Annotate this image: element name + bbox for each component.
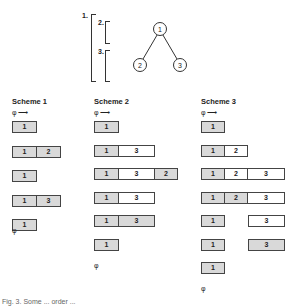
row-segment: 3 (119, 145, 155, 157)
row-segment: 1 (94, 145, 119, 157)
scheme-row: 132 (94, 168, 178, 180)
scheme-row: 13 (201, 215, 285, 227)
row-segment: 3 (37, 195, 61, 207)
row-segment: 1 (201, 145, 225, 157)
scheme-row: 123 (201, 168, 285, 180)
phi-start-label: φ ⟶ (201, 109, 217, 116)
row-segment: 3 (248, 239, 285, 251)
scheme-title: Scheme 2 (94, 98, 129, 106)
phi-start-label: φ ⟶ (12, 109, 28, 116)
bracket-1 (91, 14, 96, 82)
scheme-row: 13 (94, 215, 155, 227)
row-segment: 1 (94, 121, 119, 133)
tree-node-1: 1 (154, 23, 167, 36)
scheme-row: 13 (12, 195, 61, 207)
bracket-label-1: 1. (82, 12, 88, 19)
scheme-row: 12 (12, 146, 61, 158)
row-segment: 1 (12, 146, 37, 158)
svg-text:1: 1 (158, 26, 162, 33)
scheme-row: 1 (12, 121, 37, 133)
row-segment: 1 (94, 168, 119, 180)
row-segment: 1 (94, 192, 119, 204)
scheme-row: 1 (94, 121, 119, 133)
svg-text:3: 3 (178, 62, 182, 69)
scheme-row: 13 (94, 145, 155, 157)
tree-diagram: 1 2 3 (125, 15, 200, 80)
row-segment: 3 (119, 192, 155, 204)
row-segment: 1 (201, 215, 225, 227)
scheme-title: Scheme 3 (201, 98, 236, 106)
phi-start-label: φ ⟶ (94, 109, 110, 116)
tree-node-2: 2 (134, 59, 147, 72)
row-segment: 1 (201, 168, 225, 180)
row-segment: 1 (94, 215, 119, 227)
row-segment: 1 (201, 121, 225, 133)
tree-node-3: 3 (174, 59, 187, 72)
row-segment: 3 (248, 168, 285, 180)
row-segment: 2 (225, 192, 248, 204)
row-segment: 2 (37, 146, 61, 158)
row-segment: 1 (201, 239, 225, 251)
row-gap (225, 215, 248, 227)
scheme-row: 1 (12, 170, 37, 182)
phi-end-label: φ (12, 227, 17, 234)
row-segment: 3 (248, 215, 285, 227)
scheme-row: 13 (201, 239, 285, 251)
row-segment: 2 (155, 168, 178, 180)
bracket-label-2: 2. (98, 19, 104, 26)
scheme-row: 13 (94, 192, 155, 204)
scheme-row: 123 (201, 192, 285, 204)
bracket-2 (105, 21, 110, 44)
scheme-row: 1 (94, 239, 119, 251)
scheme-row: 1 (201, 121, 225, 133)
bracket-label-3: 3. (98, 48, 104, 55)
row-segment: 1 (12, 195, 37, 207)
row-segment: 1 (94, 239, 119, 251)
scheme-row: 12 (201, 145, 248, 157)
phi-end-label: φ (201, 285, 206, 292)
scheme-row: 1 (201, 262, 225, 274)
scheme-title: Scheme 1 (12, 98, 47, 106)
row-segment: 1 (201, 192, 225, 204)
row-segment: 3 (119, 168, 155, 180)
row-segment: 3 (119, 215, 155, 227)
row-segment: 1 (201, 262, 225, 274)
phi-end-label: φ (94, 262, 99, 269)
row-gap (225, 239, 248, 251)
row-segment: 1 (12, 121, 37, 133)
row-segment: 3 (248, 192, 285, 204)
bracket-3 (105, 50, 110, 82)
row-segment: 2 (225, 168, 248, 180)
row-segment: 2 (225, 145, 248, 157)
svg-text:2: 2 (138, 62, 142, 69)
row-segment: 1 (12, 170, 37, 182)
figure-caption: Fig. 3. Some ... order ... (2, 298, 76, 306)
